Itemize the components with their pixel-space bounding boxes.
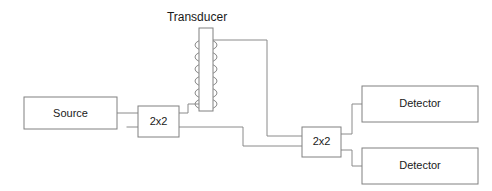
coupler-left-block[interactable]: 2x2 [138,106,179,137]
wire-coupler-right-to-detector-bottom [341,150,362,166]
source-label: Source [53,107,88,119]
detector-bottom-block[interactable]: Detector [362,148,478,184]
transducer-body [199,28,213,111]
detector-top-block[interactable]: Detector [362,86,478,122]
coupler-right-label: 2x2 [313,135,331,147]
coupler-right-block[interactable]: 2x2 [302,127,341,157]
wire-coil-top-to-coupler-right [213,40,302,136]
detector-bottom-label: Detector [399,159,441,171]
detector-top-label: Detector [399,97,441,109]
coupler-left-label: 2x2 [150,115,168,127]
fiber-optic-schematic: Source 2x2 2x2 Detector Detector Transdu… [0,0,492,191]
wire-coil-bottom-to-coupler-left [179,104,199,113]
transducer-title-label: Transducer [167,10,227,24]
schematic-canvas: Source 2x2 2x2 Detector Detector Transdu… [0,0,492,191]
wire-coupler-right-to-detector-top [341,104,362,134]
source-block[interactable]: Source [24,97,117,129]
